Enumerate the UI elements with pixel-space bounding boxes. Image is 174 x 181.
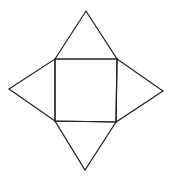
pyramid-net-diagram: [0, 0, 174, 181]
triangle-right: [116, 59, 163, 122]
square-base: [55, 59, 117, 122]
triangle-top: [55, 11, 117, 59]
triangle-bottom: [55, 121, 116, 170]
triangle-left: [9, 59, 55, 121]
